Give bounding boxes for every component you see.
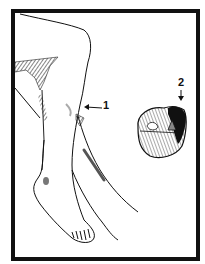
cross-section (138, 106, 186, 157)
toes (72, 229, 90, 240)
label-2: 2 (178, 76, 184, 88)
front-leg-outline (34, 140, 95, 243)
leg-illustration (0, 0, 205, 264)
shaded-region (15, 57, 58, 90)
label-1: 1 (103, 99, 109, 111)
back-leg-outline (78, 116, 138, 212)
